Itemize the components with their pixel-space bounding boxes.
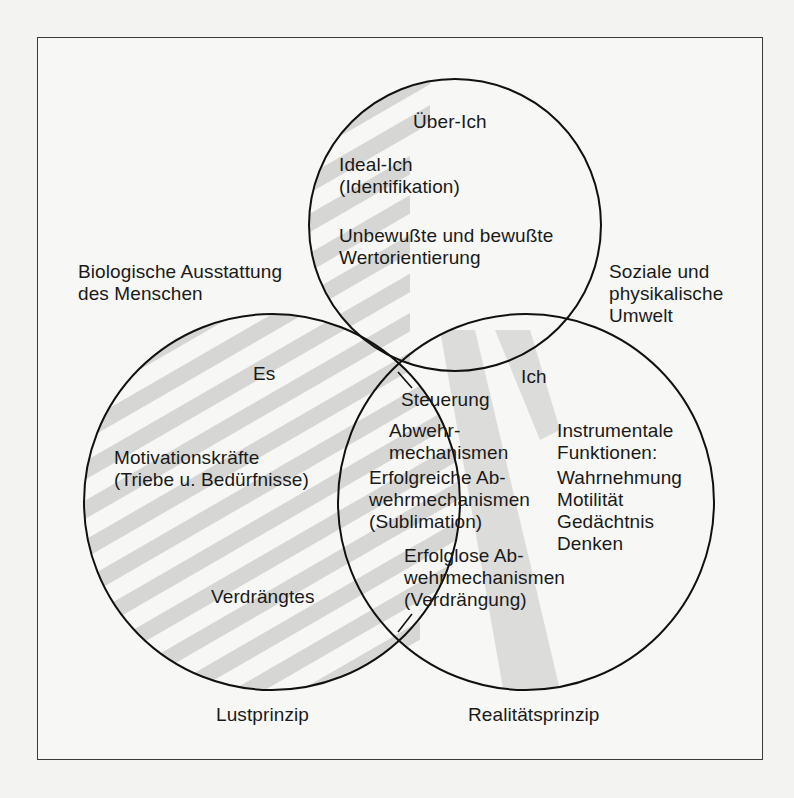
label-instrumentale-funktionen: Instrumentale Funktionen: — [557, 420, 673, 464]
label-ich: Ich — [521, 366, 547, 388]
label-lustprinzip: Lustprinzip — [216, 704, 309, 726]
label-ideal-ich: Ideal-Ich (Identifikation) — [339, 154, 460, 198]
label-motivationskraefte: Motivationskräfte (Triebe u. Bedürfnisse… — [114, 447, 309, 491]
label-biologische-ausstattung: Biologische Ausstattung des Menschen — [78, 261, 282, 305]
venn-diagram — [0, 0, 794, 798]
label-es: Es — [253, 363, 275, 385]
label-wertorientierung: Unbewußte und bewußte Wertorientierung — [339, 225, 553, 269]
label-verdraengtes: Verdrängtes — [211, 586, 315, 608]
label-erfolgreiche-abwehr: Erfolgreiche Ab- wehrmechanismen (Sublim… — [369, 467, 530, 533]
label-steuerung: Steuerung — [401, 389, 490, 411]
label-funktionen-liste: Wahrnehmung Motilität Gedächtnis Denken — [557, 467, 682, 555]
label-realitaetsprinzip: Realitätsprinzip — [468, 704, 600, 726]
label-erfolglose-abwehr: Erfolglose Ab- wehrmechanismen (Verdräng… — [404, 545, 565, 611]
label-abwehrmechanismen: Abwehr- mechanismen — [389, 420, 508, 464]
label-ueber-ich: Über-Ich — [413, 111, 487, 133]
label-soziale-umwelt: Soziale und physikalische Umwelt — [609, 261, 723, 327]
